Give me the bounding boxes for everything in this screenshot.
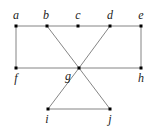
node-b [46,25,49,28]
node-label-i: i [45,112,48,126]
node-a [15,25,18,28]
graph-diagram: abcdefghij [0,0,150,132]
node-label-b: b [43,8,49,22]
edge-d-g [79,26,110,68]
node-label-e: e [138,8,144,22]
node-label-g: g [65,69,71,83]
node-label-c: c [75,8,81,22]
edge-g-j [79,68,110,109]
node-f [15,67,18,70]
edge-b-g [47,26,79,68]
node-label-d: d [107,8,114,22]
nodes [15,25,143,111]
node-label-f: f [14,71,19,85]
node-e [140,25,143,28]
node-label-h: h [138,71,144,85]
node-d [109,25,112,28]
node-h [140,67,143,70]
node-label-j: j [106,112,112,126]
edge-g-i [48,68,79,109]
node-label-a: a [13,8,19,22]
node-i [47,108,50,111]
node-g [78,67,81,70]
node-j [109,108,112,111]
node-c [77,25,80,28]
